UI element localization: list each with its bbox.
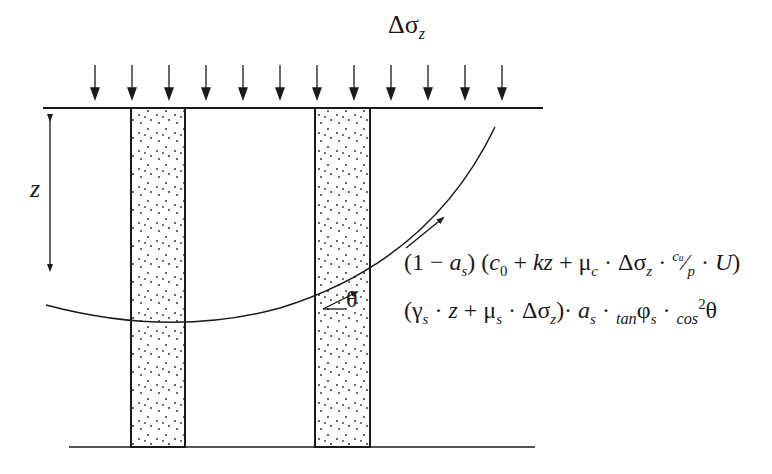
load-arrow-icon	[498, 65, 506, 99]
stone-column-1	[131, 108, 185, 447]
angle-label: θ	[346, 286, 358, 313]
load-arrow-icon	[91, 65, 99, 99]
stone-column-2	[315, 108, 370, 447]
depth-label: z	[30, 174, 40, 204]
formula-line-2: (γs · z + μs · Δσz)· as · tanφs · cos2θ	[404, 296, 717, 329]
load-arrow-icon	[239, 65, 247, 99]
slip-surface-curve	[46, 127, 495, 322]
load-arrow-icon	[424, 65, 432, 99]
diagram-graphics	[0, 0, 772, 474]
load-arrow-icon	[387, 65, 395, 99]
load-arrow-icon	[128, 65, 136, 99]
load-arrow-icon	[313, 65, 321, 99]
shear-direction-arrow	[406, 218, 443, 248]
load-arrow-icon	[276, 65, 284, 99]
load-arrow-icon	[461, 65, 469, 99]
load-arrow-icon	[202, 65, 210, 99]
stone-column-slip-diagram: Δσz z θ (1 − as) (c0 + kz + μc · Δσz · c…	[0, 0, 772, 474]
load-arrow-icon	[350, 65, 358, 99]
load-label: Δσz	[388, 10, 425, 43]
formula-line-1: (1 − as) (c0 + kz + μc · Δσz · cu⁄p · U)	[404, 248, 740, 280]
load-arrow-icon	[165, 65, 173, 99]
